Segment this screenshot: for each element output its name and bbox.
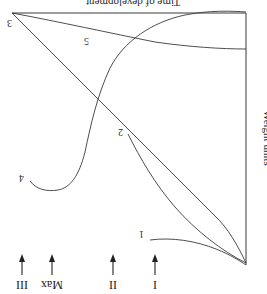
chart-canvas <box>0 0 267 294</box>
stage-label-max: Max <box>37 279 67 291</box>
curve-label-2: 2 <box>118 127 123 137</box>
curve-1 <box>150 239 246 265</box>
stage-label-iii: III <box>13 279 31 291</box>
stage-arrows-group <box>19 254 158 275</box>
stage-arrow-iii <box>19 254 25 275</box>
stage-arrow-i <box>152 254 158 275</box>
y-axis-label-text: Weight units <box>262 110 267 166</box>
curve-label-5: 5 <box>84 36 89 46</box>
chart-title-text: Time of development <box>86 0 180 9</box>
stage-label-ii: II <box>105 279 121 291</box>
stage-arrow-ii <box>110 254 116 275</box>
curve-label-4: 4 <box>19 173 24 183</box>
curves-group <box>12 11 246 265</box>
stage-label-i: I <box>149 279 161 291</box>
curve-2 <box>128 134 246 263</box>
chart-title: Time of development <box>0 0 267 9</box>
axes-group <box>12 13 246 265</box>
stage-arrow-max <box>49 254 55 275</box>
curve-label-1: 1 <box>139 229 144 239</box>
y-axis-label: Weight units <box>233 132 267 144</box>
curve-3 <box>12 13 246 263</box>
curve-label-3: 3 <box>7 18 12 28</box>
